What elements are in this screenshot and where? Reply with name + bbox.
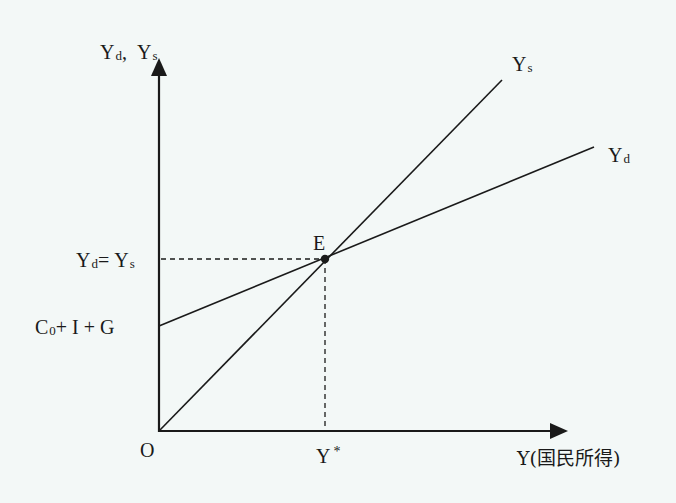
y-axis-label: Yd, Ys [100,42,157,62]
equilibrium-y-label: Yd= Ys [76,250,135,270]
yd-line [159,147,594,326]
intercept-label: C0+ I + G [35,317,115,337]
origin-label: O [140,440,154,460]
equilibrium-point-label: E [313,233,325,253]
x-axis-arrow-icon [550,423,568,439]
yd-line-label: Yd [608,145,630,165]
equilibrium-point [321,255,329,263]
x-axis-label: Y(国民所得) [517,449,620,468]
equilibrium-x-label: Y* [316,445,340,466]
ys-line-label: Ys [512,54,533,74]
